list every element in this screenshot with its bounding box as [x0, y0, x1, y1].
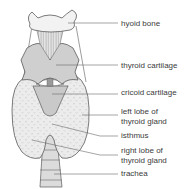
- label-left-lobe-line1: left lobe of: [121, 107, 158, 116]
- label-trachea: trachea: [121, 169, 148, 178]
- label-isthmus: isthmus: [121, 131, 149, 140]
- label-left-lobe-line2: thyroid gland: [121, 117, 167, 126]
- hyoid-bone-shape: [28, 10, 76, 32]
- label-right-lobe-line1: right lobe of: [121, 146, 163, 155]
- label-thyroid-cartilage: thyroid cartilage: [121, 61, 177, 70]
- label-right-lobe-line2: thyroid gland: [121, 156, 167, 165]
- label-hyoid-bone: hyoid bone: [121, 19, 160, 28]
- label-cricoid-cartilage: cricoid cartilage: [121, 88, 177, 97]
